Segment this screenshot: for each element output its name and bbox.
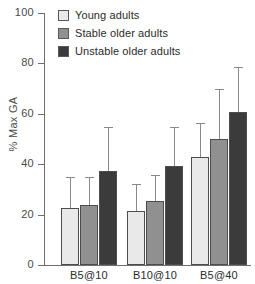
- y-tick-label: 0: [2, 259, 34, 270]
- plot-area: [45, 13, 251, 265]
- bar[interactable]: [61, 208, 79, 265]
- x-tick-label: B5@10: [54, 269, 124, 281]
- bar-group: [191, 13, 249, 265]
- error-bar-stem: [174, 128, 175, 166]
- bar-group: [127, 13, 185, 265]
- y-tick-label: 80: [2, 57, 34, 68]
- y-tick-mark: [38, 265, 44, 266]
- bar[interactable]: [191, 157, 209, 265]
- x-tick-label: B10@10: [120, 269, 190, 281]
- bar[interactable]: [80, 205, 98, 265]
- error-bar-stem: [238, 68, 239, 112]
- error-bar-cap: [132, 184, 141, 185]
- y-tick-label: 20: [2, 209, 34, 220]
- y-tick-mark: [38, 13, 44, 14]
- bar[interactable]: [99, 171, 117, 265]
- y-tick-mark: [38, 164, 44, 165]
- y-axis-label: % Max GA: [7, 88, 19, 160]
- y-tick-mark: [38, 63, 44, 64]
- error-bar-stem: [219, 90, 220, 139]
- error-bar-cap: [170, 127, 179, 128]
- y-tick-mark: [38, 114, 44, 115]
- error-bar-stem: [89, 178, 90, 205]
- bar[interactable]: [165, 166, 183, 265]
- error-bar-cap: [196, 123, 205, 124]
- error-bar-stem: [108, 128, 109, 171]
- y-tick-label: 40: [2, 158, 34, 169]
- error-bar-cap: [215, 89, 224, 90]
- bar[interactable]: [127, 211, 145, 265]
- error-bar-stem: [200, 124, 201, 157]
- error-bar-cap: [85, 177, 94, 178]
- x-tick-label: B5@40: [184, 269, 254, 281]
- error-bar-stem: [70, 178, 71, 208]
- y-tick-label: 60: [2, 108, 34, 119]
- bar-chart-figure: % Max GA 020406080100 Young adultsStable…: [0, 0, 255, 284]
- error-bar-cap: [104, 127, 113, 128]
- error-bar-cap: [151, 175, 160, 176]
- bar[interactable]: [146, 201, 164, 265]
- error-bar-stem: [136, 185, 137, 211]
- bar[interactable]: [229, 112, 247, 265]
- error-bar-cap: [66, 177, 75, 178]
- bar[interactable]: [210, 139, 228, 265]
- x-axis-line: [44, 265, 251, 266]
- bar-group: [61, 13, 119, 265]
- y-tick-mark: [38, 215, 44, 216]
- error-bar-cap: [234, 67, 243, 68]
- error-bar-stem: [155, 176, 156, 201]
- y-tick-label: 100: [2, 7, 34, 18]
